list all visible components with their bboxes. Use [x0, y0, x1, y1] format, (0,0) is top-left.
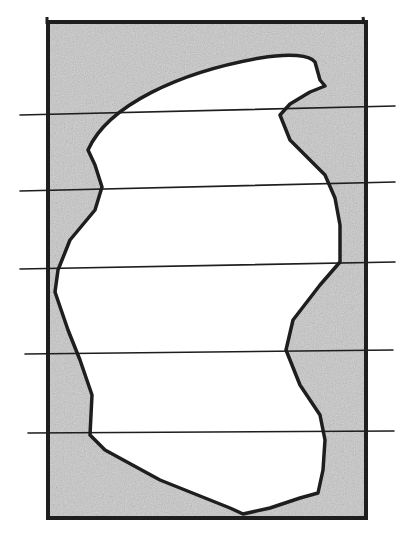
sketch-canvas	[0, 0, 408, 546]
corner-tick-top-right	[363, 17, 364, 24]
sketch-drawing	[0, 0, 408, 546]
